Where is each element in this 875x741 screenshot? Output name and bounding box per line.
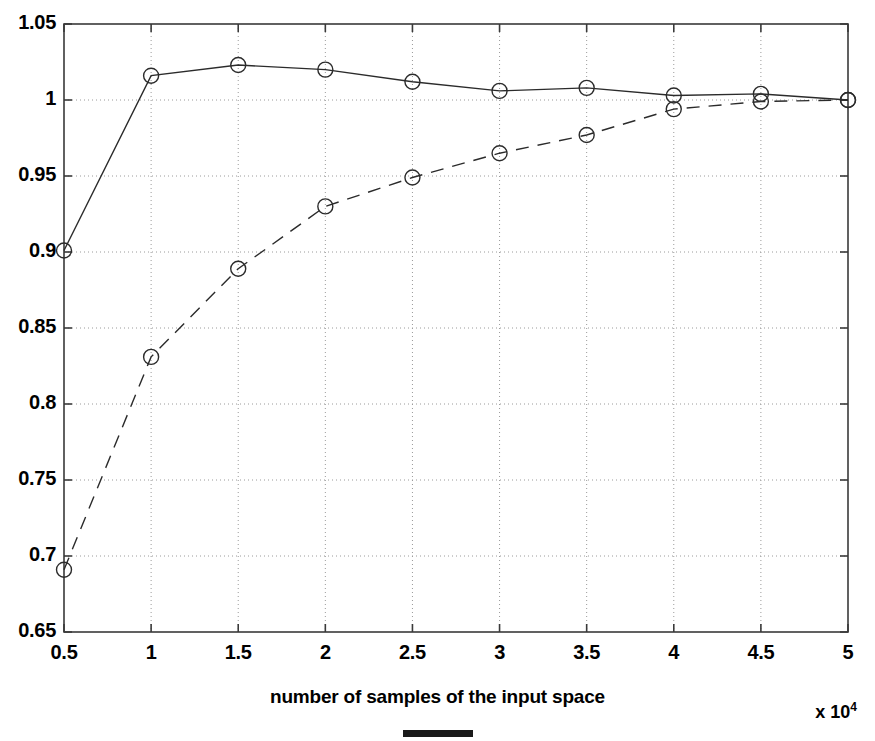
data-point-marker (405, 170, 420, 185)
x-axis-multiplier: x 104 (815, 700, 857, 723)
data-point-marker (492, 146, 507, 161)
footer-marker-bar (403, 730, 473, 737)
data-point-marker (579, 80, 594, 95)
data-point-marker (318, 199, 333, 214)
data-point-marker (144, 68, 159, 83)
x-tick-label: 1.5 (198, 641, 278, 664)
data-point-marker (492, 83, 507, 98)
series-line-solid-series (64, 65, 848, 250)
y-tick-label: 0.8 (29, 391, 56, 414)
y-tick-label: 0.75 (18, 467, 56, 490)
y-tick-label: 0.65 (18, 619, 56, 642)
x-tick-label: 0.5 (24, 641, 104, 664)
gridlines (64, 24, 848, 632)
data-point-marker (579, 127, 594, 142)
data-point-marker (666, 88, 681, 103)
y-tick-label: 1.05 (18, 11, 56, 34)
x-tick-label: 2 (285, 641, 365, 664)
x-tick-label: 2.5 (372, 641, 452, 664)
data-point-marker (231, 261, 246, 276)
data-point-marker (753, 94, 768, 109)
x-tick-label: 3.5 (547, 641, 627, 664)
multiplier-exponent: 4 (850, 700, 857, 714)
y-tick-label: 0.7 (29, 543, 56, 566)
chart-canvas (0, 0, 875, 741)
x-tick-label: 4.5 (721, 641, 801, 664)
series-line-dashed-series (64, 100, 848, 570)
y-tick-label: 0.95 (18, 163, 56, 186)
y-tick-label: 0.85 (18, 315, 56, 338)
x-axis-label: number of samples of the input space (0, 686, 875, 708)
data-point-marker (841, 93, 856, 108)
x-tick-label: 5 (808, 641, 875, 664)
data-point-marker (57, 562, 72, 577)
data-point-marker (318, 62, 333, 77)
data-point-marker (57, 243, 72, 258)
data-point-marker (231, 58, 246, 73)
data-point-marker (144, 349, 159, 364)
figure-container: 0.650.70.750.80.850.90.9511.05 0.511.522… (0, 0, 875, 741)
x-tick-label: 4 (634, 641, 714, 664)
y-tick-label: 0.9 (29, 239, 56, 262)
x-tick-label: 1 (111, 641, 191, 664)
y-tick-label: 1 (45, 87, 56, 110)
multiplier-base: x 10 (815, 702, 850, 722)
data-point-marker (666, 102, 681, 117)
data-series (57, 58, 856, 578)
x-tick-label: 3 (460, 641, 540, 664)
data-point-marker (405, 74, 420, 89)
